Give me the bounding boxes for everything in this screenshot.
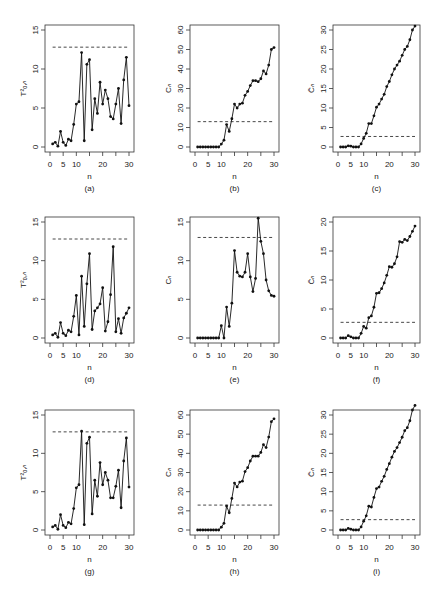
y-axis-label: C̃ₙ [307,276,316,285]
data-point [373,496,376,499]
data-point [393,262,396,265]
x-tick-label: 30 [125,351,134,360]
data-point [88,58,91,61]
data-point [401,54,404,57]
plot-frame [333,217,420,343]
x-tick-label: 10 [359,351,368,360]
data-point [109,293,112,296]
data-point [196,337,199,340]
data-point [107,320,110,323]
x-tick-label: 0 [48,160,53,169]
y-tick-label: 15 [31,25,40,34]
data-point [91,328,94,331]
y-tick-label: 0 [319,335,328,340]
data-point [64,526,67,529]
data-point [244,470,247,473]
data-point [209,529,212,532]
y-tick-label: 20 [176,487,185,496]
x-axis-label: n [87,555,91,564]
data-point [91,128,94,131]
data-point [75,294,78,297]
y-axis-label: T²ₒ,ₙ [19,465,28,481]
data-point [241,276,244,279]
data-point [393,450,396,453]
data-point [122,460,125,463]
series-line [341,226,415,338]
data-point [342,146,345,149]
data-point [383,282,386,285]
data-point [267,436,270,439]
data-point [347,527,350,530]
data-point [339,529,342,532]
panel-caption: (c) [372,184,382,193]
data-point [406,239,409,242]
y-tick-label: 30 [319,25,328,34]
panel-h: 010203040506005102030n(h)Cₙ [164,410,279,576]
data-point [344,529,347,532]
data-point [254,455,257,458]
x-tick-label: 10 [72,543,81,552]
data-point [212,146,215,149]
series-line [53,247,129,337]
data-point [259,451,262,454]
data-point [72,315,75,318]
data-point [373,306,376,309]
data-point [259,77,262,80]
data-point [270,48,273,51]
y-axis-label: C̃ₙ [307,84,316,93]
y-tick-label: 10 [31,448,40,457]
x-tick-label: 10 [359,543,368,552]
data-point [125,437,128,440]
data-point [349,528,352,531]
data-point [388,80,391,83]
x-tick-label: 0 [193,351,198,360]
data-point [352,529,355,532]
data-point [96,495,99,498]
data-point [349,145,352,148]
panel-e: 05101505102030n(e)Cₙ [164,217,279,384]
data-point [67,138,70,141]
data-point [70,139,73,142]
data-point [212,529,215,532]
data-point [262,443,265,446]
data-point [128,486,131,489]
x-tick-label: 10 [217,543,226,552]
x-tick-label: 30 [270,351,279,360]
y-axis-label: T²ₒ,ₙ [19,272,28,288]
data-point [344,146,347,149]
data-point [125,56,128,59]
y-axis-label: Cₙ [164,276,173,285]
data-point [99,461,102,464]
data-point [403,48,406,51]
data-point [385,274,388,277]
x-tick-label: 20 [385,160,394,169]
y-tick-label: 5 [319,306,328,311]
data-point [241,480,244,483]
y-tick-label: 60 [176,410,185,419]
x-tick-label: 30 [411,160,420,169]
data-point [215,337,218,340]
y-tick-label: 5 [31,105,40,110]
data-point [362,325,365,328]
data-point [347,334,350,337]
panel-f: 0510152005102030n(f)C̃ₙ [307,217,420,384]
data-point [85,442,88,445]
x-tick-label: 20 [243,351,252,360]
data-point [262,252,265,255]
x-tick-label: 0 [193,160,198,169]
data-point [252,455,255,458]
data-point [414,25,417,28]
data-point [362,137,365,140]
data-point [385,468,388,471]
data-point [339,337,342,340]
data-point [367,505,370,508]
x-axis-label: n [374,555,378,564]
y-tick-label: 10 [319,103,328,112]
data-point [357,146,360,149]
panel-caption: (f) [373,375,381,384]
panel-d: 05101505102030n(d)T²ₒ,ₙ [19,217,134,384]
data-point [378,291,381,294]
data-point [357,337,360,340]
data-point [114,330,117,333]
y-axis-label: C̃ₙ [307,468,316,477]
